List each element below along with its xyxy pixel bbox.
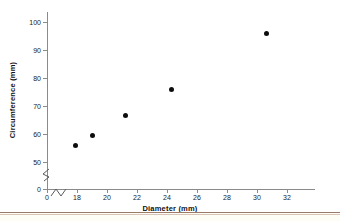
x-tick-mark: [197, 189, 198, 193]
x-axis-line: [47, 189, 315, 190]
x-axis-break-icon: [50, 185, 70, 199]
y-tick-label: 0: [37, 186, 41, 193]
x-tick-mark: [257, 189, 258, 193]
y-tick-label: 50: [33, 159, 41, 166]
y-tick-label: 60: [33, 131, 41, 138]
scatter-chart: 05060708090100 01820222426283032 Diamete…: [0, 0, 340, 221]
y-tick-mark: [43, 22, 47, 23]
y-tick-mark: [43, 78, 47, 79]
x-tick-mark: [47, 189, 48, 193]
x-tick-label: 28: [223, 194, 231, 201]
x-tick-label: 18: [73, 194, 81, 201]
y-axis-line: [47, 12, 48, 190]
data-point: [169, 87, 174, 92]
x-tick-mark: [137, 189, 138, 193]
footer-rule: [0, 212, 340, 213]
y-tick-label: 80: [33, 75, 41, 82]
y-tick-mark: [43, 162, 47, 163]
x-tick-label: 22: [133, 194, 141, 201]
x-tick-label: 20: [103, 194, 111, 201]
y-tick-mark: [43, 50, 47, 51]
x-tick-label: 0: [45, 194, 49, 201]
data-point: [90, 133, 95, 138]
y-tick-label: 70: [33, 103, 41, 110]
y-tick-mark: [43, 134, 47, 135]
data-point: [73, 143, 78, 148]
data-point: [264, 31, 269, 36]
footer-rule-secondary: [0, 214, 340, 215]
x-tick-label: 26: [193, 194, 201, 201]
y-axis-title: Circumference (mm): [8, 62, 17, 139]
x-tick-mark: [227, 189, 228, 193]
x-tick-label: 24: [163, 194, 171, 201]
y-tick-label: 90: [33, 47, 41, 54]
x-tick-label: 30: [253, 194, 261, 201]
x-tick-mark: [107, 189, 108, 193]
x-tick-mark: [287, 189, 288, 193]
x-tick-mark: [167, 189, 168, 193]
y-tick-mark: [43, 106, 47, 107]
y-tick-label: 100: [29, 19, 41, 26]
x-tick-label: 32: [283, 194, 291, 201]
y-axis-break-icon: [40, 168, 56, 184]
x-tick-mark: [77, 189, 78, 193]
data-point: [123, 113, 128, 118]
